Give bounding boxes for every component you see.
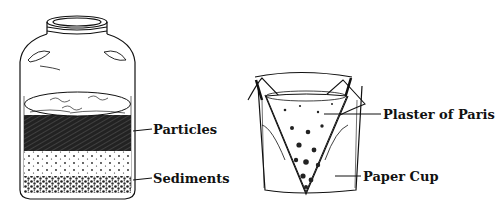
plaster-of-paris-fill <box>266 91 347 192</box>
particles-label: Particles <box>153 123 217 136</box>
particles-leader-line <box>133 129 152 131</box>
jar-layers <box>24 92 131 193</box>
diagram: Particles Sediments Plaster of Paris Pap… <box>0 0 496 207</box>
sediments-label: Sediments <box>153 172 230 185</box>
paper-cup-label: Paper Cup <box>363 170 438 183</box>
sediments-leader-line <box>133 178 152 180</box>
plaster-of-paris-label: Plaster of Paris <box>383 108 495 121</box>
